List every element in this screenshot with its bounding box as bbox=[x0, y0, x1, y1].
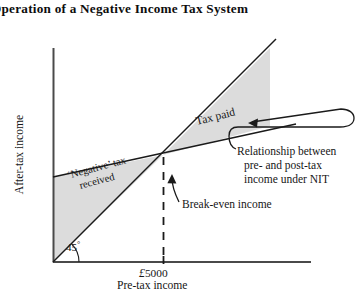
figure-container: Operation of a Negative Income Tax Syste… bbox=[0, 0, 362, 302]
annotation-break-even-income: Break-even income bbox=[182, 198, 272, 210]
x-axis-tick-value: 5000 bbox=[145, 267, 168, 279]
annotation-45-degrees: 45° bbox=[66, 240, 80, 253]
breakeven-leader-arrowhead bbox=[167, 174, 176, 184]
annotation-relationship-line2: pre- and post-tax bbox=[237, 158, 361, 172]
annotation-relationship-line3: income under NIT bbox=[237, 172, 361, 186]
x-axis-label: Pre-tax income bbox=[117, 279, 188, 292]
annotation-relationship: Relationship between pre- and post-tax i… bbox=[237, 144, 361, 187]
shaded-region-tax-paid bbox=[163, 48, 270, 155]
degree-symbol-icon: ° bbox=[77, 240, 80, 249]
annotation-relationship-line1: Relationship between bbox=[237, 145, 336, 157]
y-axis-label: After-tax income bbox=[13, 103, 26, 207]
angle-value: 45 bbox=[66, 241, 77, 253]
